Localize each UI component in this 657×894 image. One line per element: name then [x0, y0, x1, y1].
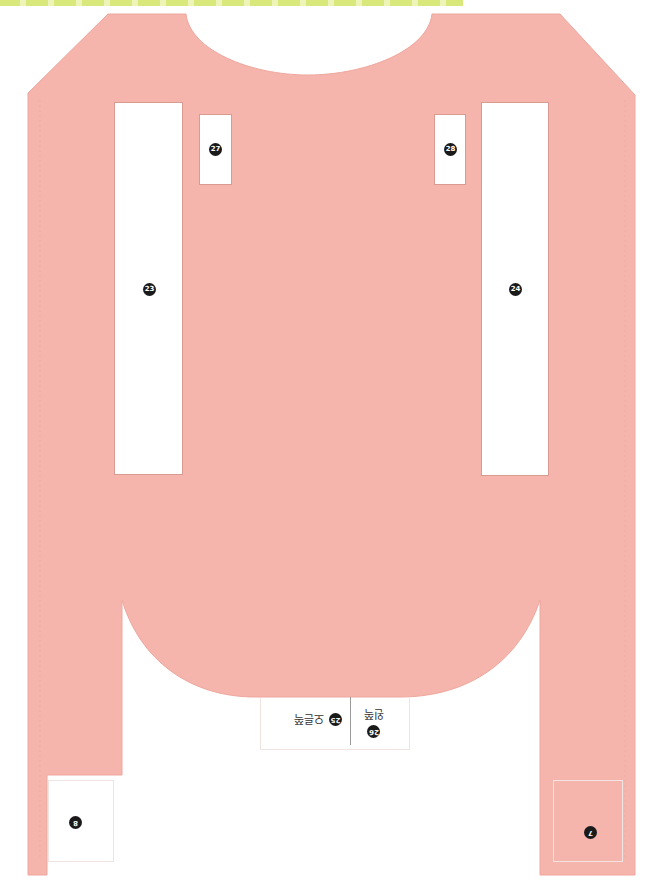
bottom-label-left: 25 오른쪽 — [262, 710, 342, 730]
right-leg-flap: 7 — [553, 780, 623, 862]
slot-24: 24 — [481, 102, 549, 476]
number-badge: 8 — [69, 816, 82, 829]
number-badge: 24 — [509, 283, 522, 296]
number-badge: 28 — [444, 143, 457, 156]
bottom-label-right: 26 왼쪽 — [358, 704, 390, 742]
garment-pattern-shape — [0, 0, 657, 894]
label-text: 오른쪽 — [294, 712, 324, 725]
number-badge: 26 — [368, 725, 381, 738]
number-badge: 23 — [143, 283, 156, 296]
number-badge: 7 — [584, 826, 597, 839]
number-badge: 25 — [329, 713, 342, 726]
slot-27: 27 — [199, 114, 232, 185]
slot-28: 28 — [434, 114, 466, 185]
left-leg-flap: 8 — [48, 780, 114, 862]
number-badge: 27 — [209, 143, 222, 156]
slot-23: 23 — [114, 102, 183, 475]
fold-line — [350, 697, 351, 745]
label-text: 왼쪽 — [358, 707, 390, 723]
